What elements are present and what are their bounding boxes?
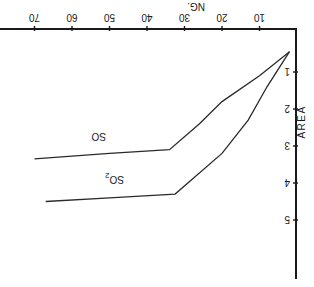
x-tick-label: 10 [254,12,266,23]
x-tick-label: 60 [66,12,78,23]
x-axis-label: NG. [187,1,205,12]
area-vs-ng-chart: 10203040506070 12345 NG. AREA SO SO2 [0,0,314,287]
y-tick-label: 2 [284,103,290,114]
so-curve [35,52,290,159]
x-tick-label: 30 [179,12,191,23]
so2-curve-label: SO2 [105,171,124,185]
y-axis-label: AREA [296,105,307,138]
x-tick-label: 20 [216,12,228,23]
so-curve-label: SO [91,131,106,142]
x-tick-label: 50 [104,12,116,23]
x-tick-label: 40 [141,12,153,23]
y-tick-label: 3 [284,140,290,151]
y-tick-label: 4 [284,177,290,188]
x-tick-label: 70 [29,12,41,23]
y-tick-label: 5 [284,214,290,225]
y-tick-label: 1 [284,66,290,77]
so2-curve [46,52,290,202]
